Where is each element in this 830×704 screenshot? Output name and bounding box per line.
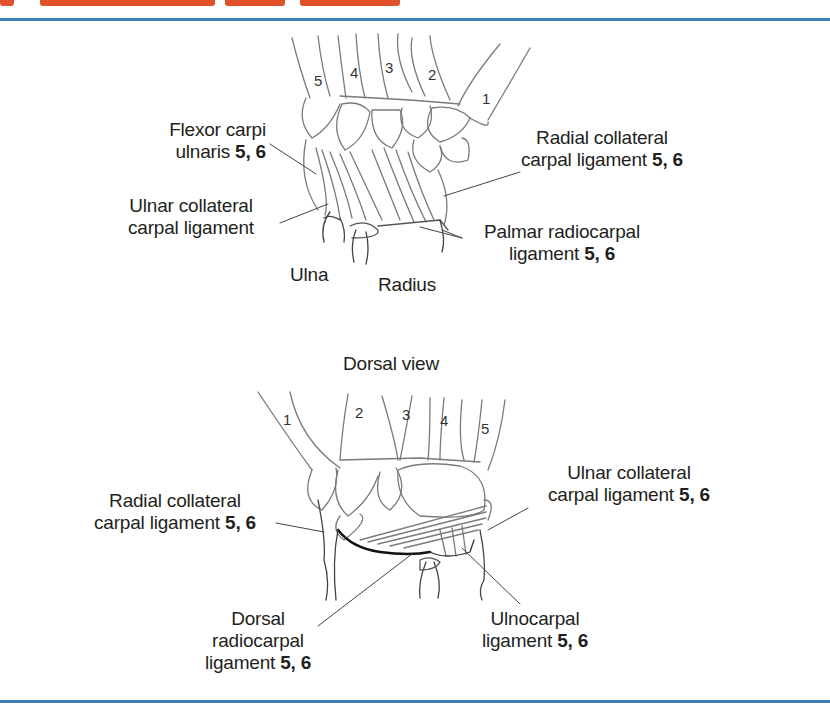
label-palmar-radiocarpal-ligament: Palmar radiocarpal ligament 5, 6 — [470, 221, 654, 265]
dorsal-digit-2: 2 — [355, 404, 363, 421]
label-radial-collateral-carpal-ligament: Radial collateral carpal ligament 5, 6 — [512, 127, 692, 171]
label-dorsal-radial-collateral-carpal-ligament: Radial collateral carpal ligament 5, 6 — [82, 490, 268, 534]
dorsal-view-title: Dorsal view — [343, 353, 439, 375]
dorsal-digit-4: 4 — [440, 412, 448, 429]
label-dorsal-ulnar-collateral-carpal-ligament: Ulnar collateral carpal ligament 5, 6 — [536, 462, 722, 506]
label-ulna: Ulna — [290, 264, 328, 286]
palmar-digit-2: 2 — [428, 66, 436, 83]
palmar-digit-3: 3 — [385, 59, 393, 76]
palmar-digit-4: 4 — [350, 64, 358, 81]
label-ulnocarpal-ligament: Ulnocarpal ligament 5, 6 — [470, 608, 600, 652]
bottom-rule — [0, 700, 830, 703]
dorsal-digit-5: 5 — [481, 420, 489, 437]
wrist-ligament-illustrations — [0, 0, 830, 704]
label-flexor-carpi-ulnaris: Flexor carpi ulnaris 5, 6 — [150, 119, 266, 163]
label-dorsal-radiocarpal-ligament: Dorsal radiocarpal ligament 5, 6 — [196, 608, 320, 674]
palmar-digit-1: 1 — [482, 90, 490, 107]
dorsal-digit-3: 3 — [402, 406, 410, 423]
palmar-digit-5: 5 — [314, 72, 322, 89]
label-ulnar-collateral-carpal-ligament: Ulnar collateral carpal ligament — [112, 195, 270, 239]
label-radius: Radius — [378, 274, 436, 296]
dorsal-wrist-drawing — [258, 392, 505, 600]
dorsal-digit-1: 1 — [283, 411, 291, 428]
